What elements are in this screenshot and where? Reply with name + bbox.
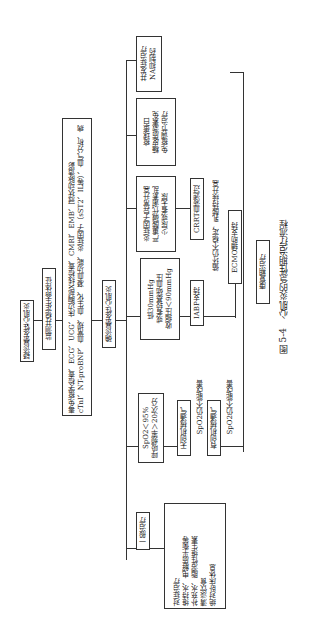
node-suspect: 疑诊暴发性心肌炎 xyxy=(20,300,34,362)
node-oliguria: 少尿或者无尿 严重酸碱代谢紊乱 炎症因子异常升高 xyxy=(136,176,176,252)
connector xyxy=(164,446,177,447)
node-text: 疑诊暴发性心肌炎 xyxy=(23,303,32,359)
node-crrt: CRRT血液滤过 xyxy=(190,178,204,240)
node-recovery: 康复期治疗 xyxy=(256,240,270,304)
connector xyxy=(221,446,243,447)
connector xyxy=(27,324,28,326)
connector xyxy=(243,72,244,452)
node-text: 监测并稳定生命体征 xyxy=(45,278,54,341)
connector xyxy=(126,316,140,317)
connector xyxy=(204,316,236,317)
connector xyxy=(116,320,126,321)
label-spo2-fail-2: SpO2仍不能改善 xyxy=(226,380,235,434)
node-text: 有创机械通气 xyxy=(210,407,219,449)
label-spo2-fail-1: SpO2仍不能改善 xyxy=(196,380,205,434)
connector xyxy=(180,316,190,317)
connector xyxy=(235,284,236,318)
node-text: 无创机械通气 xyxy=(180,407,189,449)
node-ippv: 有创机械通气 xyxy=(207,400,221,456)
node-nippv: 无创机械通气 xyxy=(177,400,191,456)
connector xyxy=(126,446,138,447)
node-text: ECMO辅助支持 xyxy=(231,221,240,272)
node-na: NA抑制药 并发症治疗 xyxy=(136,36,162,92)
node-immune: 免疫调节治疗 糖皮质激素免 疫球蛋白 xyxy=(136,98,176,166)
node-confirm: 确诊暴发性心肌炎 xyxy=(102,280,116,348)
node-text: 呼吸频率＞20次/分 SpO2＜95% xyxy=(142,398,160,458)
connector xyxy=(56,320,62,321)
node-text: 收缩压＜90mmHg 或者较基础血压 低30mmHg xyxy=(147,269,174,330)
node-text: 康复期治疗 xyxy=(259,255,268,290)
connector xyxy=(126,208,136,209)
label-circ-fail: 循环仍不稳定，乳酸持续升高 xyxy=(212,180,221,271)
node-bp: 收缩压＜90mmHg 或者较基础血压 低30mmHg xyxy=(140,258,180,340)
node-text: 一般治疗 xyxy=(139,517,148,545)
connector xyxy=(92,320,102,321)
connector xyxy=(126,135,136,136)
caption-number: 图 5-4 xyxy=(278,328,288,354)
node-text: 绝对卧床休息 清淡饮食 补充水、脂溶性维生素 维持水、电解质平衡等 对症治疗 xyxy=(173,536,218,606)
node-text: 免疫调节治疗 糖皮质激素免 疫球蛋白 xyxy=(143,111,170,153)
node-general: 一般治疗 xyxy=(136,512,150,550)
connector xyxy=(34,320,42,321)
connector xyxy=(176,208,190,209)
node-text: NA抑制药 并发症治疗 xyxy=(140,47,158,82)
node-text: CRRT血液滤过 xyxy=(193,185,202,233)
connector xyxy=(126,60,136,61)
node-general-detail: 绝对卧床休息 清淡饮食 补充水、脂溶性维生素 维持水、电解质平衡等 对症治疗 xyxy=(164,503,226,609)
node-ecmo: ECMO辅助支持 xyxy=(228,210,242,284)
node-monitor: 监测并稳定生命体征 xyxy=(42,268,56,350)
connector xyxy=(230,72,244,73)
connector xyxy=(150,548,164,549)
node-text: IABP支持 xyxy=(193,287,202,319)
node-text: cTnI、NT-proBNP、血常规、血生化、凝血功能、炎症因子（sST2、IL… xyxy=(68,121,86,413)
caption-text: 心肌炎的急性期治疗流程 xyxy=(278,220,288,319)
node-resp: 呼吸频率＞20次/分 SpO2＜95% xyxy=(138,393,164,463)
node-text: 少尿或者无尿 严重酸碱代谢紊乱 炎症因子异常升高 xyxy=(143,186,170,242)
node-tests: cTnI、NT-proBNP、血常规、血生化、凝血功能、炎症因子（sST2、IL… xyxy=(62,118,92,416)
node-text: 确诊暴发性心肌炎 xyxy=(105,286,114,342)
connector xyxy=(126,548,136,549)
node-iabp: IABP支持 xyxy=(190,280,204,326)
figure-caption: 图 5-4 心肌炎的急性期治疗流程 xyxy=(276,220,289,354)
